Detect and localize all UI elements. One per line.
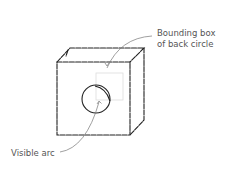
cube-side-face [130,48,144,135]
label-line-1: Bounding box [157,28,215,39]
visible-arc [95,86,110,101]
leader-visible-arc [60,102,99,152]
label-bounding-box: Bounding box of back circle [157,28,215,50]
label-visible-arc: Visible arc [11,148,55,159]
diagram: Bounding box of back circle Visible arc [0,0,232,173]
label-line-2: of back circle [157,39,215,50]
cube-top-face [57,48,144,62]
